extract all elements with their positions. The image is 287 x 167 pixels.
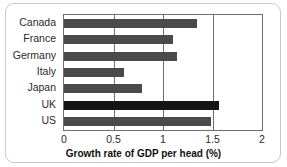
category-label-uk: UK [41,99,56,110]
category-label-france: France [23,33,56,44]
bar-uk [64,101,219,110]
xtick-label-0: 0 [61,133,67,145]
category-label-italy: Italy [37,66,56,77]
xtick-label-1: 1 [160,133,166,145]
bar-us [64,117,211,126]
bar-japan [64,84,142,93]
plot-area [63,14,263,131]
category-label-japan: Japan [27,82,56,93]
bar-canada [64,19,197,28]
category-label-germany: Germany [13,50,56,61]
gridline-1 [163,15,164,130]
x-axis-title: Growth rate of GDP per head (%) [0,148,287,159]
category-label-us: US [41,115,56,126]
xtick-label-0.5: 0.5 [106,133,121,145]
bar-germany [64,52,177,61]
xtick-label-2: 2 [259,133,265,145]
chart-figure: Canada France Germany Italy Japan UK US … [0,0,287,167]
x-axis-tick-labels: 0 0.5 1 1.5 2 [0,133,287,147]
category-label-canada: Canada [19,17,56,28]
category-axis-labels: Canada France Germany Italy Japan UK US [0,14,60,131]
xtick-label-1.5: 1.5 [205,133,220,145]
bar-italy [64,68,124,77]
bar-france [64,35,173,44]
gridline-1.5 [213,15,214,130]
